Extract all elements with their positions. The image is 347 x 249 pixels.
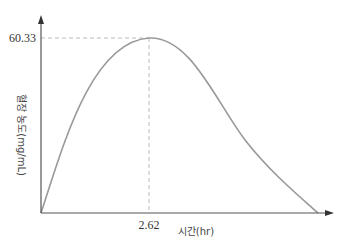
- concentration-time-chart: 60.33 2.62 시간(hr) 혈장 농도(mg/mL): [0, 0, 347, 249]
- concentration-curve: [41, 38, 318, 213]
- y-axis-label: 혈장 농도(mg/mL): [16, 94, 28, 176]
- x-axis-label: 시간(hr): [178, 226, 214, 237]
- x-tick-label-peak: 2.62: [139, 218, 160, 232]
- y-axis-arrow-icon: [38, 15, 44, 24]
- x-axis-arrow-icon: [325, 210, 334, 216]
- y-tick-label-peak: 60.33: [9, 31, 36, 45]
